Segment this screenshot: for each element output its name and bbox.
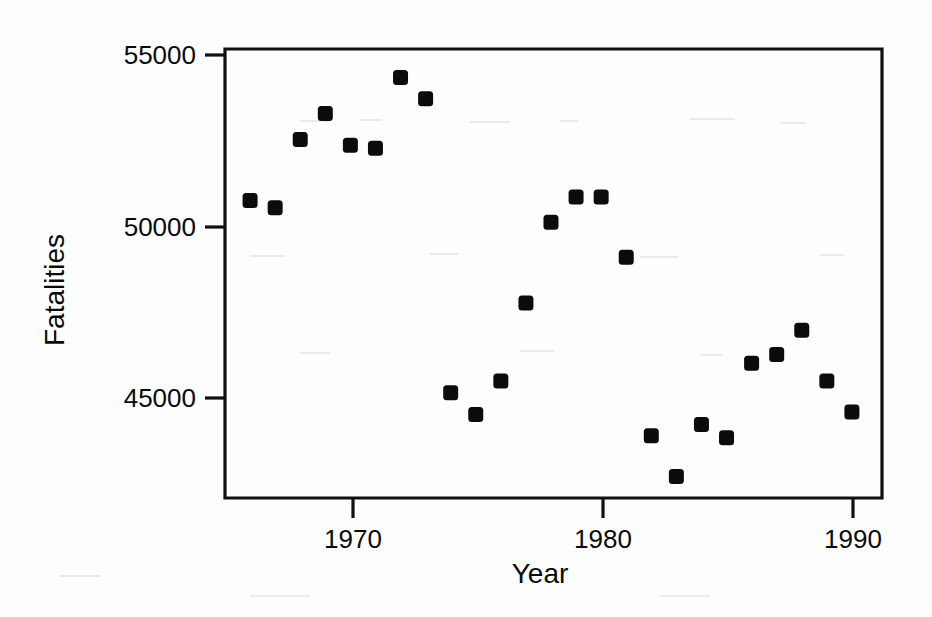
data-point [418, 91, 433, 106]
chart-canvas: 55000 50000 45000 1970 1980 1990 Year Fa… [0, 0, 932, 617]
data-point [543, 215, 558, 230]
y-tick-label-50000: 50000 [124, 212, 196, 242]
y-axis-title: Fatalities [39, 234, 70, 346]
data-point [268, 200, 283, 215]
data-point [694, 417, 709, 432]
scatter-plot-figure: 55000 50000 45000 1970 1980 1990 Year Fa… [0, 0, 932, 617]
data-point [368, 141, 383, 156]
data-point [493, 373, 508, 388]
data-point [844, 405, 859, 420]
data-point [719, 430, 734, 445]
data-point [644, 428, 659, 443]
y-tick-label-45000: 45000 [124, 383, 196, 413]
data-point [594, 190, 609, 205]
data-point [318, 106, 333, 121]
data-point [744, 356, 759, 371]
data-point [819, 373, 834, 388]
scan-noise [60, 118, 844, 597]
x-tick-label-1980: 1980 [574, 524, 632, 554]
data-point [343, 138, 358, 153]
y-tick-label-55000: 55000 [124, 40, 196, 70]
x-axis-ticks [353, 498, 853, 518]
x-tick-label-1990: 1990 [824, 524, 882, 554]
x-axis-title: Year [512, 558, 569, 589]
data-point [569, 190, 584, 205]
data-point [243, 193, 258, 208]
data-point [293, 132, 308, 147]
data-point-group [243, 70, 860, 484]
data-point [794, 323, 809, 338]
y-axis-ticks [205, 55, 225, 398]
data-point [518, 296, 533, 311]
data-point [669, 469, 684, 484]
data-point [443, 385, 458, 400]
data-point [769, 347, 784, 362]
data-point [468, 407, 483, 422]
x-tick-label-1970: 1970 [324, 524, 382, 554]
data-point [393, 70, 408, 85]
data-point [619, 250, 634, 265]
